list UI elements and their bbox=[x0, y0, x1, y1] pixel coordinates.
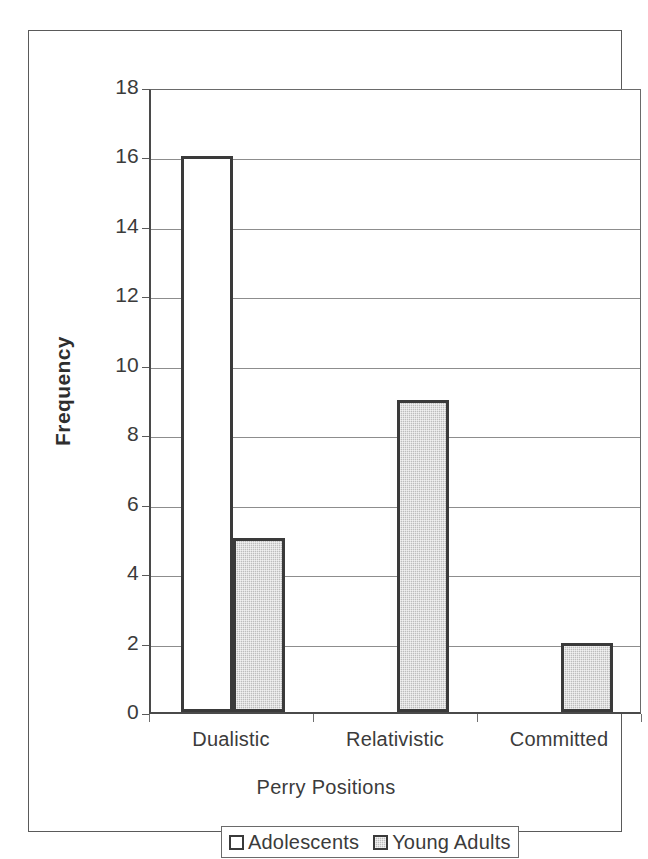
x-axis-tick-mark bbox=[313, 714, 314, 722]
bar-committed-young-adults bbox=[561, 643, 613, 712]
y-axis-tick-label: 16 bbox=[95, 144, 139, 168]
x-axis-tick-mark bbox=[477, 714, 478, 722]
x-axis-category-label-committed: Committed bbox=[477, 728, 641, 751]
y-axis-title: Frequency bbox=[51, 321, 75, 461]
y-axis-tick-label: 8 bbox=[95, 422, 139, 446]
y-axis-tick-mark bbox=[142, 436, 149, 437]
legend-label: Adolescents bbox=[248, 831, 359, 854]
y-axis-tick-mark bbox=[142, 89, 149, 90]
x-axis-tick-mark bbox=[149, 714, 150, 722]
x-axis-title: Perry Positions bbox=[29, 776, 623, 799]
plot-area bbox=[149, 89, 641, 714]
bar-dualistic-adolescents bbox=[181, 156, 233, 712]
legend-swatch-icon bbox=[229, 835, 244, 850]
bar-dualistic-young-adults bbox=[233, 538, 285, 712]
y-axis-tick-mark bbox=[142, 297, 149, 298]
y-axis-tick-label: 18 bbox=[95, 75, 139, 99]
bar-relativistic-young-adults bbox=[397, 400, 449, 713]
y-axis-tick-label: 10 bbox=[95, 353, 139, 377]
y-axis-tick-mark bbox=[142, 228, 149, 229]
x-axis-tick-mark bbox=[641, 714, 642, 722]
y-axis-tick-label: 4 bbox=[95, 561, 139, 585]
x-axis-category-label-dualistic: Dualistic bbox=[149, 728, 313, 751]
x-axis-category-label-relativistic: Relativistic bbox=[313, 728, 477, 751]
legend-label: Young Adults bbox=[392, 831, 510, 854]
legend-swatch-icon bbox=[373, 835, 388, 850]
y-axis-tick-mark bbox=[142, 645, 149, 646]
y-axis-tick-mark bbox=[142, 575, 149, 576]
y-axis-tick-label: 6 bbox=[95, 492, 139, 516]
chart-outer-frame: Frequency 181614121086420 DualisticRelat… bbox=[28, 30, 622, 832]
y-axis-tick-label: 14 bbox=[95, 214, 139, 238]
y-axis-tick-mark bbox=[142, 158, 149, 159]
y-axis-tick-label: 0 bbox=[95, 700, 139, 724]
y-axis-tick-mark bbox=[142, 506, 149, 507]
legend-entry-adolescents[interactable]: Adolescents bbox=[229, 831, 359, 854]
y-axis-tick-mark bbox=[142, 714, 149, 715]
y-axis-tick-mark bbox=[142, 367, 149, 368]
chart-legend: AdolescentsYoung Adults bbox=[221, 826, 519, 858]
y-axis-tick-label: 2 bbox=[95, 631, 139, 655]
y-axis-tick-labels: 181614121086420 bbox=[87, 31, 139, 831]
legend-entry-young-adults[interactable]: Young Adults bbox=[373, 831, 510, 854]
y-axis-tick-label: 12 bbox=[95, 283, 139, 307]
chart-figure: Frequency 181614121086420 DualisticRelat… bbox=[0, 0, 648, 859]
